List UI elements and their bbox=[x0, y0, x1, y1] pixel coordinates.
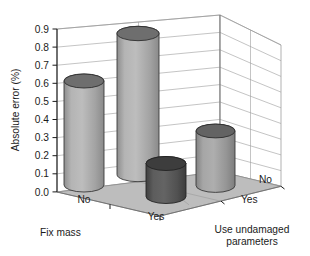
y-tick-label: 0.4 bbox=[35, 114, 49, 125]
z-axis-title-line2: parameters bbox=[226, 236, 278, 247]
y-axis-title: Absolute error (%) bbox=[10, 69, 21, 152]
y-tick-labels: 0.9 0.8 0.7 0.6 0.5 0.4 0.3 0.2 0.1 0.0 bbox=[35, 24, 49, 198]
chart-container: 0.9 0.8 0.7 0.6 0.5 0.4 0.3 0.2 0.1 0.0 … bbox=[0, 0, 310, 256]
y-tick-label: 0.2 bbox=[35, 150, 49, 161]
y-tick-label: 0.8 bbox=[35, 42, 49, 53]
y-tick-label: 0.1 bbox=[35, 168, 49, 179]
y-tick-label: 0.7 bbox=[35, 60, 49, 71]
x-category-label-no: No bbox=[77, 194, 90, 205]
bar-fixmass-no-undamaged-no[interactable] bbox=[64, 74, 104, 192]
bar-chart-3d: 0.9 0.8 0.7 0.6 0.5 0.4 0.3 0.2 0.1 0.0 … bbox=[0, 0, 310, 256]
z-category-label-yes: Yes bbox=[241, 194, 258, 205]
x-axis-title: Fix mass bbox=[40, 227, 81, 238]
bar-fixmass-no-undamaged-yes[interactable] bbox=[196, 124, 235, 192]
x-category-label-yes: Yes bbox=[148, 211, 165, 222]
y-tick-label: 0.9 bbox=[35, 24, 49, 35]
y-tick-label: 0.3 bbox=[35, 132, 49, 143]
z-category-label-no: No bbox=[259, 174, 272, 185]
bar-fixmass-yes-undamaged-yes[interactable] bbox=[146, 157, 186, 204]
y-tick-label: 0.0 bbox=[35, 187, 49, 198]
y-tick-label: 0.5 bbox=[35, 96, 49, 107]
z-axis-title-line1: Use undamaged bbox=[215, 224, 290, 235]
y-axis bbox=[53, 29, 58, 192]
y-tick-label: 0.6 bbox=[35, 78, 49, 89]
